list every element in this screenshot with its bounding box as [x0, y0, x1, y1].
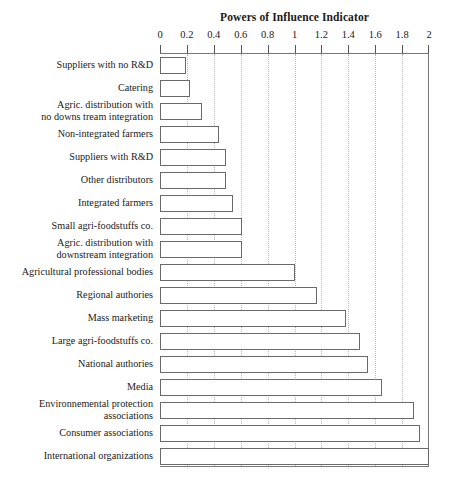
bar[interactable]: [160, 287, 317, 304]
bar[interactable]: [160, 448, 429, 465]
category-label: Small agri-foodstuffs co.: [0, 220, 153, 231]
bar-chart: Powers of Influence Indicator 00.20.40.6…: [0, 0, 449, 485]
category-label: Environnemental protection associations: [0, 398, 153, 421]
category-label: Large agri-foodstuffs co.: [0, 335, 153, 346]
x-tick-mark: [375, 45, 376, 53]
x-tick-label: 0.4: [207, 28, 220, 42]
bar[interactable]: [160, 333, 360, 350]
category-label: Agricultural professional bodies: [0, 266, 153, 277]
x-tick-mark: [348, 45, 349, 53]
bar[interactable]: [160, 425, 420, 442]
x-tick-label: 1.4: [342, 28, 355, 42]
bar[interactable]: [160, 402, 414, 419]
category-label: Agric. distribution with no downs tream …: [0, 99, 153, 122]
y-axis-category-labels: Suppliers with no R&DCateringAgric. dist…: [0, 53, 157, 467]
x-tick-mark: [241, 45, 242, 53]
category-label: Mass marketing: [0, 312, 153, 323]
bar[interactable]: [160, 218, 242, 235]
bar-row: [160, 264, 428, 281]
bar[interactable]: [160, 126, 219, 143]
bar-row: [160, 195, 428, 212]
x-axis-tick-marks: [160, 45, 429, 53]
bars-layer: [160, 54, 428, 466]
category-label: Suppliers with R&D: [0, 151, 153, 162]
bar[interactable]: [160, 356, 368, 373]
bar-row: [160, 57, 428, 74]
category-label: Other distributors: [0, 174, 153, 185]
x-tick-mark: [295, 45, 296, 53]
x-tick-mark: [321, 45, 322, 53]
bar[interactable]: [160, 310, 346, 327]
bar-row: [160, 402, 428, 419]
bar-row: [160, 241, 428, 258]
x-tick-label: 0.8: [261, 28, 274, 42]
x-tick-mark: [214, 45, 215, 53]
category-label: International organizations: [0, 450, 153, 461]
bar-row: [160, 80, 428, 97]
category-label: Regional authories: [0, 289, 153, 300]
category-label: Media: [0, 381, 153, 392]
bar-row: [160, 149, 428, 166]
bar-row: [160, 448, 428, 465]
x-tick-label: 1.8: [396, 28, 409, 42]
x-tick-mark: [187, 45, 188, 53]
bar-row: [160, 425, 428, 442]
category-label: Suppliers with no R&D: [0, 59, 153, 70]
x-tick-label: 1.2: [315, 28, 328, 42]
bar[interactable]: [160, 57, 186, 74]
x-tick-label: 1: [292, 28, 297, 42]
bar-row: [160, 333, 428, 350]
bar-row: [160, 126, 428, 143]
bar-row: [160, 103, 428, 120]
x-tick-label: 1.6: [369, 28, 382, 42]
bar-row: [160, 172, 428, 189]
bar-row: [160, 218, 428, 235]
x-tick-mark: [160, 45, 161, 53]
x-axis-tick-labels: 00.20.40.60.811.21.41.61.82: [160, 28, 429, 43]
category-label: Consumer associations: [0, 427, 153, 438]
x-tick-label: 0.6: [234, 28, 247, 42]
category-label: Catering: [0, 82, 153, 93]
bar-row: [160, 310, 428, 327]
plot-area: [160, 53, 429, 467]
x-tick-label: 0: [157, 28, 162, 42]
category-label: Integrated farmers: [0, 197, 153, 208]
x-tick-mark: [402, 45, 403, 53]
x-tick-mark: [428, 45, 429, 53]
category-label: Agric. distribution with downstream inte…: [0, 237, 153, 260]
x-tick-label: 0.2: [180, 28, 193, 42]
bar-row: [160, 356, 428, 373]
bar[interactable]: [160, 264, 295, 281]
bar-row: [160, 379, 428, 396]
bar[interactable]: [160, 172, 226, 189]
x-tick-mark: [268, 45, 269, 53]
bar[interactable]: [160, 195, 233, 212]
bar[interactable]: [160, 241, 242, 258]
bar[interactable]: [160, 149, 226, 166]
category-label: National authories: [0, 358, 153, 369]
bar[interactable]: [160, 80, 190, 97]
x-tick-label: 2: [426, 28, 431, 42]
bar-row: [160, 287, 428, 304]
bar[interactable]: [160, 379, 382, 396]
category-label: Non-integrated farmers: [0, 128, 153, 139]
chart-title: Powers of Influence Indicator: [160, 11, 429, 23]
bar[interactable]: [160, 103, 202, 120]
